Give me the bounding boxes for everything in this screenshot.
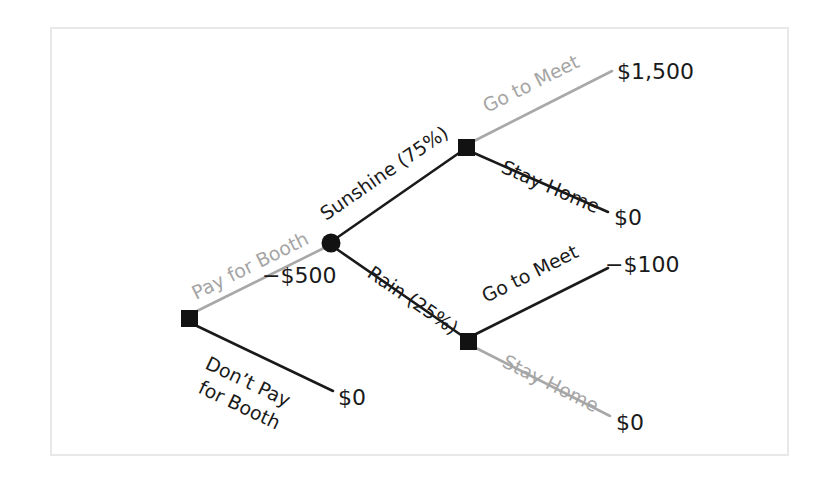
decision-tree-figure: Pay for Booth Don’t Pay for Booth Sunshi… bbox=[0, 0, 828, 482]
figure-border bbox=[51, 28, 788, 455]
decision-tree-canvas: Pay for Booth Don’t Pay for Booth Sunshi… bbox=[0, 0, 828, 482]
node-decision-rain[interactable] bbox=[460, 333, 477, 350]
payoff-rain-stay-home: $0 bbox=[616, 410, 644, 435]
branch-label-rain-go-to-meet: Go to Meet bbox=[478, 240, 582, 306]
branch-label-rain-stay-home: Stay Home bbox=[499, 350, 602, 416]
branch-label-sunshine-stay-home: Stay Home bbox=[498, 155, 603, 217]
payoff-dont-pay-for-booth: $0 bbox=[338, 385, 366, 410]
payoff-rain-go-to-meet: −$100 bbox=[605, 252, 679, 277]
node-decision-sunshine[interactable] bbox=[458, 139, 475, 156]
node-root-decision[interactable] bbox=[181, 310, 198, 327]
cost-label-booth: −$500 bbox=[262, 263, 336, 288]
payoff-sunshine-go-to-meet: $1,500 bbox=[617, 59, 694, 84]
payoff-sunshine-stay-home: $0 bbox=[614, 205, 642, 230]
branch-label-rain: Rain (25%) bbox=[364, 261, 463, 339]
node-chance-weather[interactable] bbox=[322, 234, 341, 253]
branch-label-sunshine-go-to-meet: Go to Meet bbox=[479, 50, 583, 116]
